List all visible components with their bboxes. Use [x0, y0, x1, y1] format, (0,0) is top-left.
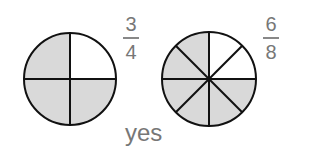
circle-quarters	[24, 33, 116, 125]
denominator: 4	[125, 41, 136, 63]
answer-text: yes	[125, 119, 162, 147]
circle-eighths	[162, 32, 256, 126]
fraction-six-eighths: 6 8	[262, 14, 280, 62]
numerator: 3	[125, 13, 136, 35]
fraction-bar	[263, 37, 279, 39]
numerator: 6	[265, 13, 276, 35]
fraction-bar	[123, 37, 139, 39]
fraction-three-quarters: 3 4	[122, 14, 140, 62]
denominator: 8	[265, 41, 276, 63]
